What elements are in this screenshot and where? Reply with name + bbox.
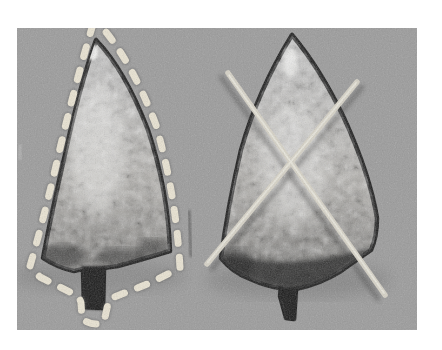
page: [0, 0, 442, 350]
photo-area: [10, 24, 417, 330]
photo-figure: [0, 0, 442, 350]
photograph: [0, 0, 442, 350]
film-grain-overlay: [17, 28, 417, 330]
